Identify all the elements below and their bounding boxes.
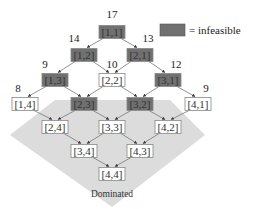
node-score: 17 bbox=[107, 8, 119, 20]
node-label: [1,4] bbox=[14, 98, 35, 110]
node-score: 13 bbox=[143, 32, 155, 44]
node-label: [1,3] bbox=[44, 74, 65, 86]
node-label: [2,3] bbox=[73, 98, 94, 110]
legend-label: = infeasible bbox=[189, 24, 241, 36]
node-2-4: [2,4] bbox=[42, 121, 68, 134]
edge-2-2-to-3-2 bbox=[121, 87, 137, 97]
node-label: [4,1] bbox=[187, 98, 208, 110]
node-3-3: [3,3] bbox=[99, 121, 125, 134]
node-label: [1,1] bbox=[101, 26, 122, 38]
edge-2-1-to-3-1 bbox=[149, 62, 165, 73]
node-1-3: [1,3]9 bbox=[42, 58, 68, 87]
edge-3-1-to-3-2 bbox=[143, 87, 159, 97]
node-4-4: [4,4] bbox=[99, 168, 125, 181]
node-label: [4,3] bbox=[129, 145, 150, 157]
node-1-2: [1,2]14 bbox=[69, 32, 98, 62]
dominated-label: Dominated bbox=[91, 189, 133, 199]
lattice-diagram: Dominated [1,1]17[1,2]14[2,1]13[1,3]9[2,… bbox=[0, 0, 254, 209]
node-4-1: [4,1]9 bbox=[185, 82, 211, 111]
node-label: [3,4] bbox=[73, 145, 94, 157]
edge-2-2-to-2-3 bbox=[87, 87, 103, 97]
node-label: [4,2] bbox=[157, 121, 178, 133]
edge-1-1-to-2-1 bbox=[121, 39, 137, 48]
node-3-4: [3,4] bbox=[71, 145, 97, 158]
node-1-4: [1,4]8 bbox=[12, 82, 38, 111]
legend: = infeasible bbox=[160, 24, 241, 36]
node-score: 12 bbox=[171, 58, 182, 70]
edge-3-1-to-4-1 bbox=[177, 87, 195, 97]
legend-swatch-infeasible bbox=[160, 24, 185, 36]
node-label: [2,1] bbox=[129, 49, 150, 61]
node-3-2: [3,2] bbox=[127, 98, 153, 111]
node-score: 9 bbox=[42, 58, 48, 70]
edge-1-1-to-1-2 bbox=[87, 39, 103, 48]
node-label: [2,2] bbox=[101, 74, 122, 86]
node-score: 10 bbox=[107, 58, 119, 70]
node-label: [3,1] bbox=[157, 74, 178, 86]
edge-1-3-to-2-3 bbox=[64, 87, 81, 97]
edge-1-2-to-1-3 bbox=[58, 62, 75, 73]
node-label: [3,3] bbox=[101, 121, 122, 133]
node-score: 14 bbox=[69, 32, 81, 44]
node-2-2: [2,2]10 bbox=[99, 58, 125, 87]
node-score: 9 bbox=[203, 82, 209, 94]
node-3-1: [3,1]12 bbox=[155, 58, 182, 87]
node-2-1: [2,1]13 bbox=[127, 32, 154, 62]
node-1-1: [1,1]17 bbox=[99, 8, 125, 39]
node-4-3: [4,3] bbox=[127, 145, 153, 158]
edge-1-3-to-1-4 bbox=[28, 87, 46, 97]
node-label: [2,4] bbox=[44, 121, 65, 133]
node-4-2: [4,2] bbox=[155, 121, 181, 134]
node-label: [3,2] bbox=[129, 98, 150, 110]
node-label: [1,2] bbox=[73, 49, 94, 61]
node-2-3: [2,3] bbox=[71, 98, 97, 111]
node-label: [4,4] bbox=[101, 168, 122, 180]
node-score: 8 bbox=[15, 82, 21, 94]
